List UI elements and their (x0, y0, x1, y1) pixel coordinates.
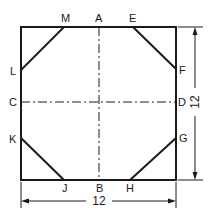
arrow-down-icon (193, 172, 198, 180)
point-label-K: K (9, 133, 17, 145)
height-dimension-label: 12 (188, 95, 202, 109)
width-dimension-label: 12 (92, 194, 106, 208)
point-label-L: L (10, 65, 16, 77)
arrow-left-icon (21, 199, 29, 204)
point-label-H: H (126, 182, 134, 194)
arrow-right-icon (168, 199, 176, 204)
point-label-F: F (179, 64, 186, 76)
point-label-C: C (9, 96, 17, 108)
point-label-J: J (62, 182, 68, 194)
point-label-M: M (61, 12, 70, 24)
chamfer-line-HG (130, 138, 176, 180)
point-label-D: D (178, 96, 186, 108)
chamfer-line-KJ (21, 138, 64, 180)
arrow-up-icon (193, 27, 198, 35)
point-label-G: G (179, 132, 188, 144)
point-label-E: E (129, 12, 136, 24)
point-label-A: A (95, 12, 103, 24)
chamfer-line-ML (21, 27, 64, 70)
chamfer-line-EF (133, 27, 176, 69)
chamfered-square-diagram: 12 12 M A E L F C D K G J B H (0, 0, 213, 215)
point-label-B: B (96, 182, 103, 194)
